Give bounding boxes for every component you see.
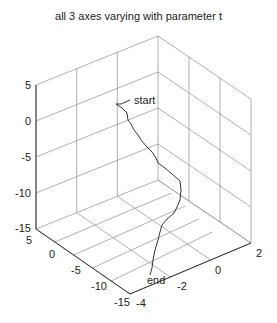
y-tick: 0 [49, 248, 55, 260]
x-tick: 0 [215, 264, 221, 276]
plot-3d: 5 0 -5 -10 -15 5 0 -5 -10 -15 -4 -2 0 2 … [0, 0, 277, 323]
figure: all 3 axes varying with parameter t [0, 0, 277, 323]
z-tick: 0 [25, 115, 31, 127]
end-annotation: end [147, 274, 165, 286]
chart-title: all 3 axes varying with parameter t [0, 10, 277, 22]
parametric-curve [116, 100, 181, 275]
z-tick-labels: 5 0 -5 -10 -15 [15, 79, 31, 234]
z-tick: 5 [25, 79, 31, 91]
x-tick: 2 [256, 247, 262, 259]
y-tick-labels: 5 0 -5 -10 -15 [26, 234, 130, 308]
x-tick: -2 [177, 280, 187, 292]
axes [36, 85, 251, 294]
start-annotation: start [134, 94, 155, 106]
grid [36, 36, 251, 294]
z-tick: -10 [15, 187, 31, 199]
y-tick: 5 [26, 234, 32, 246]
y-tick: -5 [71, 264, 81, 276]
y-tick: -15 [114, 296, 130, 308]
z-tick: -15 [15, 222, 31, 234]
y-tick: -10 [91, 280, 107, 292]
z-tick: -5 [21, 151, 31, 163]
x-tick: -4 [136, 297, 146, 309]
